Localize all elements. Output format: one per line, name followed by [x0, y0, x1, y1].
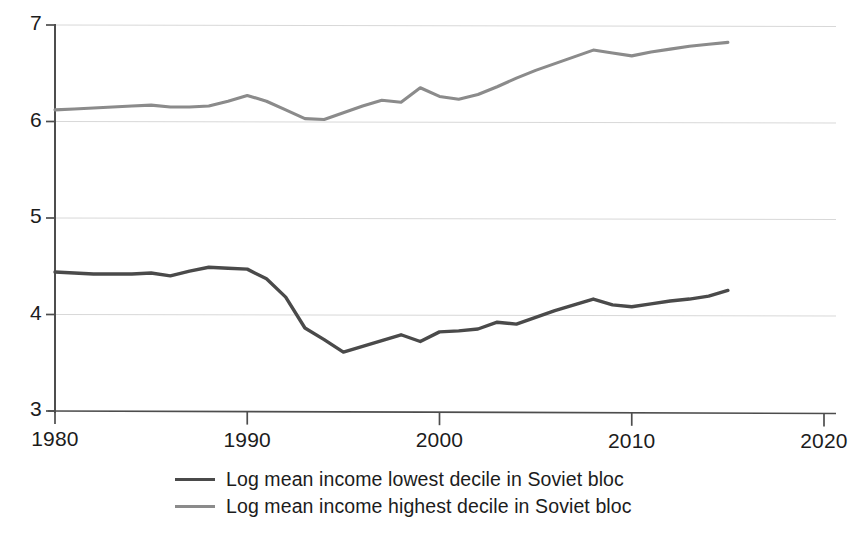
gridline-y-4 — [55, 315, 836, 317]
x-tick-label-2010: 2010 — [582, 429, 682, 453]
legend-item-0[interactable]: Log mean income lowest decile in Soviet … — [175, 466, 735, 493]
x-tick-label-2020: 2020 — [774, 429, 868, 453]
y-tick-label-4: 4 — [12, 301, 42, 325]
gridline-y-7 — [55, 25, 836, 27]
legend-item-1[interactable]: Log mean income highest decile in Soviet… — [175, 493, 735, 520]
series-line-0 — [55, 267, 728, 352]
chart-legend: Log mean income lowest decile in Soviet … — [175, 466, 735, 520]
gridline-y-5 — [55, 218, 836, 220]
gridlines — [55, 25, 836, 413]
x-tick-label-1980: 1980 — [5, 427, 105, 451]
series-line-1 — [55, 42, 728, 119]
y-tick-label-3: 3 — [12, 397, 42, 421]
axis-ticks — [46, 25, 824, 426]
x-axis-line — [48, 411, 836, 414]
y-tick-label-7: 7 — [12, 11, 42, 35]
legend-line-swatch-icon — [175, 505, 215, 508]
chart-figure: 34567 19801990200020102020 Log mean inco… — [0, 0, 868, 545]
legend-item-label: Log mean income highest decile in Soviet… — [226, 495, 632, 518]
y-tick-label-6: 6 — [12, 108, 42, 132]
gridline-y-6 — [55, 122, 836, 124]
legend-item-label: Log mean income lowest decile in Soviet … — [226, 468, 624, 491]
x-tick-label-1990: 1990 — [197, 428, 297, 452]
legend-line-swatch-icon — [175, 478, 215, 481]
y-tick-label-5: 5 — [12, 204, 42, 228]
line-chart-plot — [0, 0, 868, 545]
x-tick-label-2000: 2000 — [390, 428, 490, 452]
series-lines — [55, 42, 728, 352]
